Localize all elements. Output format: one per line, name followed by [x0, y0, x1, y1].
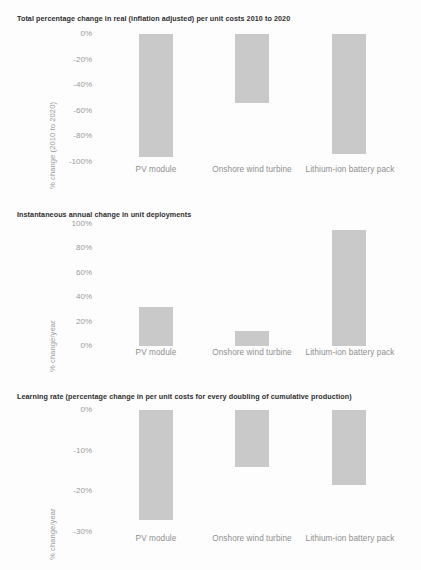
chart-title-2: Learning rate (percentage change in per …	[17, 392, 352, 401]
bar	[332, 230, 366, 346]
bar	[139, 410, 173, 520]
chart-panel-learning-rate: Learning rate (percentage change in per …	[0, 378, 421, 570]
x-tick-label: Onshore wind turbine	[202, 534, 302, 545]
bar	[332, 410, 366, 485]
x-tick-label: PV module	[106, 534, 206, 545]
x-tick-label: Onshore wind turbine	[202, 165, 302, 176]
x-tick-label: Lithium-ion battery pack	[300, 165, 400, 176]
y-tick-label: -30%	[46, 528, 92, 536]
y-tick-label: -60%	[46, 107, 92, 115]
bar-group-2	[92, 410, 415, 532]
y-tick-label: -10%	[46, 447, 92, 455]
y-tick-label: -40%	[46, 81, 92, 89]
x-tick-label: PV module	[106, 348, 206, 359]
y-tick-label: -20%	[46, 487, 92, 495]
y-tick-label: -80%	[46, 132, 92, 140]
x-tick-label: Onshore wind turbine	[202, 348, 302, 359]
y-axis-ticks-2: 0%-10%-20%-30%	[22, 410, 92, 532]
chart-panel-total-cost-change: Total percentage change in real (inflati…	[0, 0, 421, 195]
bar	[235, 410, 269, 467]
bar	[235, 34, 269, 103]
bar	[235, 331, 269, 346]
x-tick-label: PV module	[106, 165, 206, 176]
chart-title-0: Total percentage change in real (inflati…	[17, 14, 290, 23]
plot-area-0: % change (2010 to 2020) 0%-20%-40%-60%-8…	[0, 34, 421, 162]
bar-group-0	[92, 34, 415, 162]
y-tick-label: 80%	[46, 244, 92, 252]
y-axis-ticks-1: 100%80%60%40%20%0%	[22, 224, 92, 346]
y-tick-label: 100%	[46, 220, 92, 228]
bar	[139, 307, 173, 346]
x-tick-label: Lithium-ion battery pack	[300, 348, 400, 359]
bar-group-1	[92, 224, 415, 346]
x-tick-label: Lithium-ion battery pack	[300, 534, 400, 545]
y-tick-label: 40%	[46, 293, 92, 301]
figure-canvas: Total percentage change in real (inflati…	[0, 0, 421, 570]
y-tick-label: 20%	[46, 318, 92, 326]
y-axis-ticks-0: 0%-20%-40%-60%-80%-100%	[22, 34, 92, 162]
y-tick-label: 0%	[46, 406, 92, 414]
bar	[139, 34, 173, 157]
y-tick-label: -20%	[46, 56, 92, 64]
bar	[332, 34, 366, 154]
chart-title-1: Instantaneous annual change in unit depl…	[17, 210, 191, 219]
y-tick-label: 60%	[46, 269, 92, 277]
plot-area-2: % change/year 0%-10%-20%-30%	[0, 410, 421, 532]
y-tick-label: 0%	[46, 342, 92, 350]
chart-panel-annual-deployment-change: Instantaneous annual change in unit depl…	[0, 196, 421, 378]
y-tick-label: -100%	[46, 158, 92, 166]
y-tick-label: 0%	[46, 30, 92, 38]
plot-area-1: % change/year 100%80%60%40%20%0%	[0, 224, 421, 346]
